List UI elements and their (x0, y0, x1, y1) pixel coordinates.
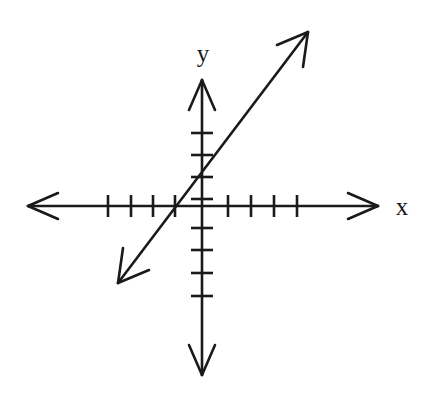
x-axis-label: x (396, 193, 409, 220)
graph-canvas: x y (0, 0, 429, 400)
coordinate-plane-figure: x y (0, 0, 429, 400)
y-axis-label: y (197, 40, 210, 67)
